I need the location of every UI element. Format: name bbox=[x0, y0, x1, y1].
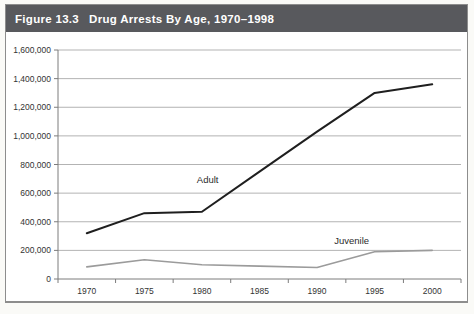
y-tick-label: 1,400,000 bbox=[13, 74, 51, 84]
y-tick-label: 0 bbox=[46, 274, 51, 284]
x-tick-label: 2000 bbox=[423, 286, 442, 296]
juvenile-series-line bbox=[87, 250, 432, 267]
adult-series-line bbox=[87, 84, 432, 233]
chart-area: 0200,000400,000600,000800,0001,000,0001,… bbox=[6, 32, 467, 301]
figure-panel: Figure 13.3 Drug Arrests By Age, 1970–19… bbox=[5, 4, 468, 303]
x-tick-label: 1980 bbox=[192, 286, 211, 296]
x-tick-label: 1990 bbox=[308, 286, 327, 296]
line-chart-svg: 0200,000400,000600,000800,0001,000,0001,… bbox=[6, 32, 467, 301]
juvenile-series-label: Juvenile bbox=[334, 235, 369, 246]
adult-series-label: Adult bbox=[197, 174, 219, 185]
figure-number-label: Figure 13.3 bbox=[15, 13, 79, 25]
y-tick-label: 400,000 bbox=[20, 217, 51, 227]
x-tick-label: 1975 bbox=[135, 286, 154, 296]
figure-title: Drug Arrests By Age, 1970–1998 bbox=[89, 13, 274, 25]
x-tick-label: 1995 bbox=[365, 286, 384, 296]
figure-header-bar: Figure 13.3 Drug Arrests By Age, 1970–19… bbox=[6, 5, 467, 32]
y-tick-label: 1,200,000 bbox=[13, 102, 51, 112]
y-tick-label: 1,600,000 bbox=[13, 45, 51, 55]
y-tick-label: 1,000,000 bbox=[13, 131, 51, 141]
y-tick-label: 800,000 bbox=[20, 160, 51, 170]
x-tick-label: 1970 bbox=[77, 286, 96, 296]
x-tick-label: 1985 bbox=[250, 286, 269, 296]
y-tick-label: 200,000 bbox=[20, 245, 51, 255]
y-tick-label: 600,000 bbox=[20, 188, 51, 198]
